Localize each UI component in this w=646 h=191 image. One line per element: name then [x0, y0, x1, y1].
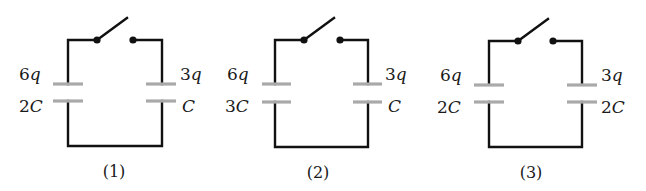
circuit-1: 6q 2C 3q C (1) — [19, 18, 202, 181]
right-capacitance-label: C — [182, 96, 195, 116]
left-upper-wire — [275, 40, 304, 84]
switch-arm — [518, 19, 548, 41]
left-capacitance-label: 2C — [437, 97, 461, 117]
right-capacitance-label: 2C — [601, 97, 625, 117]
switch-contact-dot — [129, 36, 136, 43]
left-capacitance-label: 3C — [225, 96, 249, 116]
left-charge-label: 6q — [440, 65, 462, 85]
circuit-caption: (3) — [520, 163, 543, 182]
left-charge-label: 6q — [19, 64, 41, 84]
circuit-caption: (2) — [307, 163, 330, 182]
right-charge-label: 3q — [385, 64, 407, 84]
switch-pivot-dot — [93, 36, 100, 43]
right-charge-label: 3q — [180, 64, 202, 84]
right-upper-wire — [553, 41, 582, 84]
left-capacitance-label: 2C — [19, 96, 43, 116]
right-upper-wire — [340, 40, 368, 84]
circuit-2: 6q 3C 3q C (2) — [225, 18, 407, 182]
switch-contact-dot — [549, 37, 556, 44]
switch-pivot-dot — [514, 37, 521, 44]
right-charge-label: 3q — [601, 65, 623, 85]
circuit-figure: 6q 2C 3q C (1) 6q 3C 3q C (2) 6q 2C — [0, 0, 646, 191]
right-upper-wire — [133, 40, 162, 84]
circuit-3: 6q 2C 3q 2C (3) — [437, 19, 625, 182]
left-charge-label: 6q — [227, 64, 249, 84]
circuit-caption: (1) — [103, 162, 126, 181]
switch-contact-dot — [336, 36, 343, 43]
switch-arm — [97, 18, 127, 40]
bottom-wire — [275, 102, 368, 147]
right-capacitance-label: C — [388, 96, 401, 116]
switch-arm — [304, 18, 334, 40]
bottom-wire — [68, 101, 162, 146]
switch-pivot-dot — [300, 36, 307, 43]
left-upper-wire — [68, 40, 97, 84]
left-upper-wire — [489, 41, 518, 84]
bottom-wire — [489, 102, 582, 147]
